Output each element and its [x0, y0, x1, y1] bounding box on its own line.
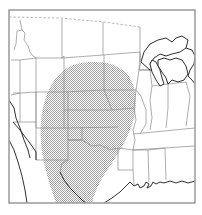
- map-canvas: [0, 0, 202, 215]
- map-figure: [0, 0, 202, 215]
